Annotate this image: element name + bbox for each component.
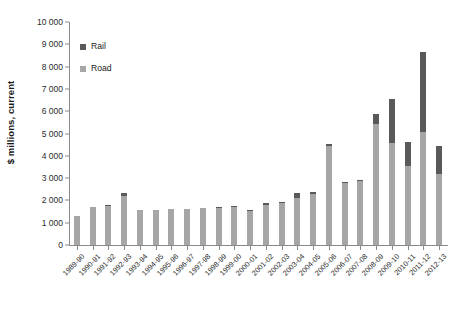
x-axis-tick-mark [282, 246, 283, 250]
bar-segment-road [90, 207, 96, 245]
bar-group[interactable] [200, 22, 206, 245]
bar-group[interactable] [184, 22, 190, 245]
bar-segment-road [105, 206, 111, 245]
bar-segment-road [373, 124, 379, 245]
bar-segment-road [263, 205, 269, 245]
chart-legend: RailRoad [80, 42, 112, 86]
bar-group[interactable] [420, 22, 426, 245]
x-axis-tick-mark [408, 246, 409, 250]
bar-segment-rail [405, 142, 411, 166]
bar-group[interactable] [231, 22, 237, 245]
bar-segment-road [137, 210, 143, 245]
plot-area: 01 0002 0003 0004 0005 0006 0007 0008 00… [69, 22, 447, 245]
bar-group[interactable] [389, 22, 395, 245]
bar-group[interactable] [342, 22, 348, 245]
bar-segment-road [184, 209, 190, 245]
bar-segment-road [310, 194, 316, 245]
bar-group[interactable] [357, 22, 363, 245]
x-axis-tick-mark [108, 246, 109, 250]
bar-segment-rail [420, 52, 426, 132]
bar-group[interactable] [310, 22, 316, 245]
bar-segment-road [153, 210, 159, 245]
legend-item[interactable]: Road [80, 64, 112, 73]
x-axis-tick-mark [140, 246, 141, 250]
bar-group[interactable] [405, 22, 411, 245]
x-axis-tick-mark [156, 246, 157, 250]
x-axis-tick-mark [203, 246, 204, 250]
x-axis-tick-mark [423, 246, 424, 250]
x-axis-tick-mark [250, 246, 251, 250]
bar-segment-rail [279, 202, 285, 203]
x-axis-tick-mark [313, 246, 314, 250]
bar-segment-road [121, 196, 127, 246]
bar-group[interactable] [279, 22, 285, 245]
bar-group[interactable] [247, 22, 253, 245]
bar-segment-rail [310, 192, 316, 195]
bar-segment-rail [436, 146, 442, 174]
bar-segment-road [247, 210, 253, 245]
bar-group[interactable] [168, 22, 174, 245]
bar-group[interactable] [294, 22, 300, 245]
bar-group[interactable] [263, 22, 269, 245]
bar-segment-road [420, 132, 426, 245]
bar-segment-road [342, 183, 348, 245]
bar-segment-rail [373, 114, 379, 124]
bar-segment-rail [105, 205, 111, 206]
bar-segment-rail [216, 207, 222, 208]
x-axis-tick-mark [93, 246, 94, 250]
bar-group[interactable] [121, 22, 127, 245]
legend-swatch-icon [80, 44, 86, 50]
bar-segment-road [357, 181, 363, 245]
bar-group[interactable] [137, 22, 143, 245]
x-axis-tick-mark [376, 246, 377, 250]
bar-segment-rail [231, 206, 237, 207]
bar-segment-road [200, 208, 206, 245]
x-axis-tick-mark [219, 246, 220, 250]
bar-segment-rail [357, 180, 363, 182]
x-axis-tick-mark [329, 246, 330, 250]
bar-segment-road [294, 198, 300, 245]
x-axis-tick-mark [297, 246, 298, 250]
x-axis-tick-mark [234, 246, 235, 250]
bars-layer [69, 22, 447, 245]
bar-segment-road [168, 209, 174, 245]
bar-group[interactable] [153, 22, 159, 245]
bar-group[interactable] [373, 22, 379, 245]
bar-segment-rail [263, 203, 269, 205]
bar-segment-road [279, 203, 285, 245]
y-axis-title-text: $ millions, current [6, 81, 17, 165]
bar-group[interactable] [216, 22, 222, 245]
bar-segment-road [326, 146, 332, 245]
x-axis-tick-mark [124, 246, 125, 250]
x-axis-tick-mark [77, 246, 78, 250]
bar-segment-road [436, 174, 442, 245]
bar-segment-rail [389, 99, 395, 143]
bar-segment-road [405, 166, 411, 245]
bar-group[interactable] [326, 22, 332, 245]
bar-segment-rail [121, 193, 127, 195]
bar-chart: $ millions, current 01 0002 0003 0004 00… [0, 0, 454, 314]
legend-swatch-icon [80, 66, 86, 72]
bar-segment-road [231, 207, 237, 245]
bar-group[interactable] [436, 22, 442, 245]
bar-segment-rail [326, 144, 332, 146]
legend-item-label: Road [91, 64, 112, 73]
bar-segment-rail [342, 182, 348, 183]
x-axis-tick-mark [392, 246, 393, 250]
x-axis-tick-mark [345, 246, 346, 250]
legend-item[interactable]: Rail [80, 42, 112, 51]
bar-segment-road [74, 216, 80, 245]
bar-segment-rail [294, 193, 300, 197]
bar-segment-road [389, 143, 395, 245]
y-axis-title: $ millions, current [0, 0, 22, 245]
x-axis-tick-mark [439, 246, 440, 250]
x-axis-tick-mark [187, 246, 188, 250]
x-axis-tick-mark [360, 246, 361, 250]
legend-item-label: Rail [91, 42, 106, 51]
x-axis-tick-mark [171, 246, 172, 250]
x-axis-tick-mark [266, 246, 267, 250]
bar-segment-road [216, 208, 222, 245]
